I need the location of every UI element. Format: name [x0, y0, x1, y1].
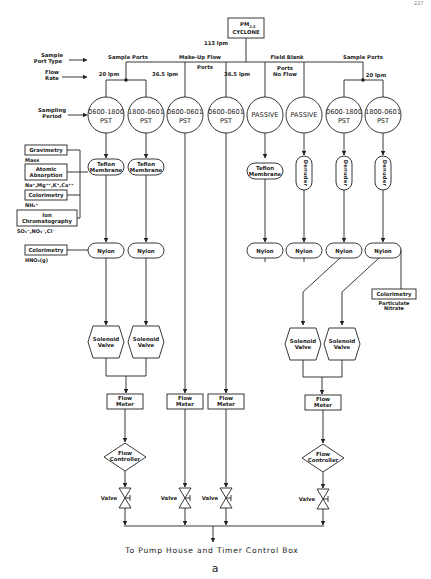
valve-2: Valve: [161, 488, 191, 508]
flow-controller-1: Flow Controller: [104, 443, 146, 471]
sampling-period-passive-1: PASSIVE: [247, 97, 283, 133]
flow-meter-4: Flow Meter: [305, 395, 341, 410]
destination-label: To Pump House and Timer Control Box: [124, 546, 298, 555]
pm25-cyclone-node: PM2.5 CYCLONE: [228, 18, 264, 38]
flow-controller-2: Flow Controller: [302, 444, 344, 472]
svg-text:PST: PST: [100, 117, 113, 125]
row-label-flow-rate: Flow Rate: [45, 69, 87, 81]
sampling-period-7: 0600-1800 PST: [326, 97, 362, 133]
analysis-colorimetry-particulate-nitrate: Colorimetry Particulate Nitrate: [372, 289, 416, 311]
port-group-make-up-sub: Ports: [197, 64, 213, 70]
flow-meter-1: Flow Meter: [107, 394, 143, 409]
svg-text:Valve: Valve: [161, 495, 178, 501]
sampling-period-2: 1800-0601 PST: [128, 97, 164, 133]
teflon-membrane-3: Teflon Membrane: [247, 163, 283, 179]
flow-make-up-2: 36.5 lpm: [224, 71, 251, 78]
svg-text:0600-0601: 0600-0601: [167, 108, 203, 116]
svg-text:Membrane: Membrane: [249, 171, 282, 177]
solenoid-valve-3: Solenoid Valve: [285, 328, 321, 360]
svg-text:Nylon: Nylon: [374, 248, 392, 255]
svg-text:Gravimetry: Gravimetry: [29, 147, 63, 154]
svg-text:Absorption: Absorption: [30, 172, 63, 179]
teflon-membrane-1: Teflon Membrane: [88, 159, 124, 175]
flow-meter-2: Flow Meter: [167, 394, 203, 409]
analysis-ion-chromatography: Ion Chromatography SO₄⁼,NO₃⁻,Cl⁻: [17, 210, 77, 234]
analysis-atomic-absorption: Atomic Absorption Na⁺,Mg⁺⁺,K⁺,Ca⁺⁺: [25, 164, 74, 189]
svg-text:Denuder: Denuder: [303, 160, 309, 187]
svg-text:SO₄⁼,NO₃⁻,Cl⁻: SO₄⁼,NO₃⁻,Cl⁻: [17, 228, 55, 234]
svg-text:Meter: Meter: [217, 401, 235, 407]
svg-text:Controller: Controller: [110, 456, 141, 462]
svg-text:Meter: Meter: [176, 401, 194, 407]
sampling-period-3: 0600-0601 PST: [167, 97, 203, 133]
row-label-sampling-period: Sampling Period: [38, 107, 87, 119]
svg-text:Valve: Valve: [101, 495, 118, 501]
svg-text:Port Type: Port Type: [34, 58, 63, 65]
port-group-sample-ports-right: Sample Ports: [343, 54, 383, 61]
nylon-filter-5: Nylon: [326, 243, 362, 258]
page-number: 227: [414, 0, 424, 6]
figure-caption: a: [212, 562, 219, 575]
svg-text:Valve: Valve: [334, 344, 351, 350]
port-group-field-blank: Field Blank: [270, 54, 304, 60]
solenoid-valve-2: Solenoid Valve: [128, 326, 164, 358]
svg-text:PASSIVE: PASSIVE: [290, 111, 317, 119]
svg-text:Valve: Valve: [295, 344, 312, 350]
valve-3: Valve: [202, 488, 232, 508]
cyclone-flow-rate: 113 lpm: [204, 40, 229, 47]
svg-text:Denuder: Denuder: [343, 160, 349, 187]
svg-text:Colorimetry: Colorimetry: [376, 291, 412, 298]
teflon-membrane-2: Teflon Membrane: [128, 159, 164, 175]
flow-left-sample: 20 lpm: [99, 71, 120, 78]
svg-text:PST: PST: [179, 117, 192, 125]
denuder-1: Denuder: [296, 156, 312, 190]
sampling-period-8: 1800-0601 PST: [365, 97, 401, 133]
nylon-filter-4: Nylon: [286, 243, 322, 258]
svg-text:Nylon: Nylon: [335, 248, 353, 255]
svg-text:1800-0601: 1800-0601: [365, 108, 401, 116]
solenoid-valve-4: Solenoid Valve: [324, 328, 360, 360]
sampler-flow-diagram: 227 PM2.5 CYCLONE 113 lpm Sample Port Ty…: [0, 0, 431, 579]
svg-text:Valve: Valve: [98, 342, 115, 348]
svg-text:0600-1800: 0600-1800: [88, 108, 124, 116]
nylon-filter-1: Nylon: [88, 243, 124, 258]
svg-text:Nitrate: Nitrate: [384, 305, 405, 311]
solenoid-valve-1: Solenoid Valve: [88, 326, 124, 358]
svg-text:Membrane: Membrane: [130, 167, 163, 173]
svg-text:Colorimetry: Colorimetry: [28, 192, 64, 199]
flow-right-sample: 20 lpm: [366, 72, 387, 79]
svg-text:Meter: Meter: [116, 401, 134, 407]
svg-text:Meter: Meter: [314, 402, 332, 408]
svg-text:Valve: Valve: [138, 342, 155, 348]
denuder-3: Denuder: [375, 156, 391, 190]
svg-text:0600-1800: 0600-1800: [326, 108, 362, 116]
field-blank-sub-2: No Flow: [273, 71, 297, 77]
sampling-period-passive-2: PASSIVE: [286, 97, 322, 133]
svg-text:CYCLONE: CYCLONE: [232, 29, 260, 35]
sampling-period-1: 0600-1800 PST: [88, 97, 124, 133]
svg-text:Membrane: Membrane: [90, 167, 123, 173]
svg-text:Mass: Mass: [25, 157, 39, 163]
svg-text:PST: PST: [140, 117, 153, 125]
svg-text:Colorimetry: Colorimetry: [28, 247, 64, 254]
svg-text:HNO₃(g): HNO₃(g): [25, 257, 48, 264]
svg-text:PST: PST: [220, 117, 233, 125]
analysis-gravimetry: Gravimetry Mass: [25, 145, 67, 163]
svg-text:1800-0601: 1800-0601: [128, 108, 164, 116]
svg-text:Controller: Controller: [308, 457, 339, 463]
svg-text:Nylon: Nylon: [295, 248, 313, 255]
svg-text:Valve: Valve: [299, 496, 316, 502]
denuder-2: Denuder: [336, 156, 352, 190]
svg-text:Rate: Rate: [45, 75, 59, 81]
valve-4: Valve: [299, 489, 329, 509]
svg-text:PST: PST: [377, 117, 390, 125]
svg-text:Nylon: Nylon: [256, 248, 274, 255]
svg-text:Na⁺,Mg⁺⁺,K⁺,Ca⁺⁺: Na⁺,Mg⁺⁺,K⁺,Ca⁺⁺: [25, 182, 74, 189]
svg-text:0600-0601: 0600-0601: [208, 108, 244, 116]
flow-meter-3: Flow Meter: [208, 394, 244, 409]
svg-text:Period: Period: [42, 113, 62, 119]
svg-text:PASSIVE: PASSIVE: [251, 111, 278, 119]
sampling-period-4: 0600-0601 PST: [208, 97, 244, 133]
svg-text:NH₄⁺: NH₄⁺: [25, 202, 39, 208]
analysis-colorimetry-hno3: Colorimetry HNO₃(g): [25, 245, 67, 264]
